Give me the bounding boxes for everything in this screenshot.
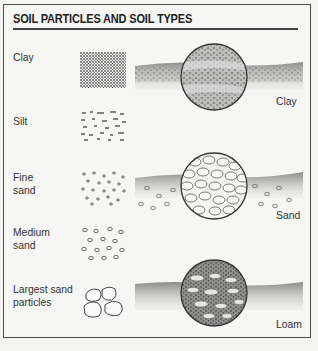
fine-sand-particles-icon (80, 170, 128, 206)
particle-label-largest-sand: Largest sandparticles (13, 283, 73, 308)
soil-type-label-loam: Loam (276, 318, 302, 330)
particle-label-clay: Clay (13, 51, 34, 64)
title-underline (13, 28, 298, 30)
soil-type-label-clay: Clay (276, 95, 297, 107)
particle-label-silt: Silt (13, 115, 27, 128)
particle-label-medium-sand: Mediumsand (13, 226, 50, 251)
particle-label-fine-sand: Finesand (13, 171, 35, 196)
largest-sand-particles-icon (82, 286, 126, 320)
clay-particles-icon (80, 52, 128, 90)
silt-particles-icon (80, 110, 128, 142)
figure-title: SOIL PARTICLES AND SOIL TYPES (13, 12, 192, 26)
medium-sand-particles-icon (80, 226, 128, 262)
soil-type-label-sand: Sand (276, 209, 300, 221)
